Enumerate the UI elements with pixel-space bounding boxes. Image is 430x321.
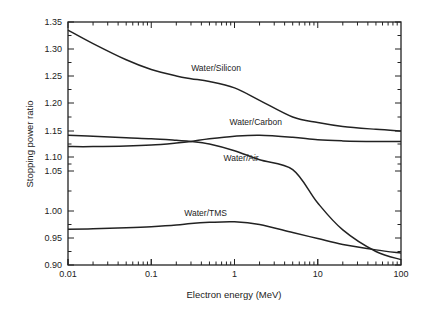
y-tick-label: 0.95: [44, 233, 62, 243]
y-tick-label: 1.35: [44, 17, 62, 27]
x-tick-label: 1: [232, 269, 237, 279]
y-axis-label: Stopping power ratio: [24, 100, 35, 187]
x-axis-label: Electron energy (MeV): [186, 289, 281, 300]
y-tick-label: 1.05: [44, 166, 62, 176]
y-tick-label: 1.20: [44, 98, 62, 108]
y-tick-label: 0.90: [44, 260, 62, 270]
y-tick-label: 1.30: [44, 44, 62, 54]
x-tick-label: 0.1: [145, 269, 158, 279]
y-tick-label: 1.00: [44, 206, 62, 216]
curve-label: Water/TMS: [184, 208, 227, 218]
curve-label: Water/Carbon: [229, 117, 282, 127]
x-tick-label: 100: [393, 269, 408, 279]
curve-label: Water/Silicon: [191, 63, 241, 73]
stopping-power-chart: 0.010.11101000.900.951.001.051.101.151.2…: [0, 0, 430, 321]
y-tick-label: 1.25: [44, 71, 62, 81]
curve-label: Water/Air: [224, 153, 259, 163]
series-line-water-silicon: [68, 30, 401, 131]
x-tick-label: 0.01: [59, 269, 77, 279]
x-tick-label: 10: [313, 269, 323, 279]
series-line-water-tms: [68, 222, 401, 253]
y-tick-label: 1.10: [44, 152, 62, 162]
y-tick-label: 1.15: [44, 126, 62, 136]
